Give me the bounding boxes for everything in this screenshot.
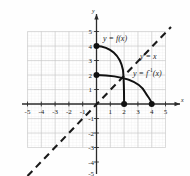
svg-text:-3: -3	[88, 144, 94, 152]
y-axis-name: y	[92, 8, 95, 14]
svg-text:1: 1	[109, 108, 113, 116]
svg-text:2: 2	[122, 108, 126, 116]
point-0-2	[94, 72, 100, 78]
svg-text:2: 2	[89, 72, 93, 80]
svg-text:-3: -3	[52, 108, 58, 116]
svg-text:-4: -4	[38, 108, 44, 116]
coordinate-plane-svg: -5 -4 -3 -2 -1 1 2 3 4 5 5 4 3 2 1 -1 -2…	[0, 0, 190, 176]
svg-text:-2: -2	[66, 108, 72, 116]
graph-figure: -5 -4 -3 -2 -1 1 2 3 4 5 5 4 3 2 1 -1 -2…	[0, 0, 190, 176]
svg-text:-5: -5	[25, 108, 31, 116]
point-4-0	[149, 101, 155, 107]
label-inverse-suffix: (x)	[153, 69, 162, 78]
svg-text:-1: -1	[88, 115, 94, 123]
svg-text:-5: -5	[88, 170, 94, 176]
y-axis-arrow	[94, 14, 98, 20]
svg-text:3: 3	[89, 57, 93, 65]
svg-text:3: 3	[136, 108, 140, 116]
label-inverse-curve: y = f-1(x)	[133, 67, 162, 78]
x-axis-arrow	[175, 102, 181, 106]
x-axis-name: x	[181, 97, 184, 103]
label-inverse-prefix: y = f	[133, 69, 148, 78]
point-2-0	[121, 101, 127, 107]
svg-text:4: 4	[150, 108, 154, 116]
svg-text:-4: -4	[88, 159, 94, 167]
label-function-curve: y = f(x)	[103, 34, 127, 43]
svg-text:5: 5	[164, 108, 168, 116]
svg-text:1: 1	[89, 86, 93, 94]
svg-text:5: 5	[89, 28, 93, 36]
svg-text:-2: -2	[88, 130, 94, 138]
label-identity-line: y = x	[140, 52, 157, 61]
point-0-4	[94, 43, 100, 49]
svg-text:4: 4	[89, 43, 93, 51]
